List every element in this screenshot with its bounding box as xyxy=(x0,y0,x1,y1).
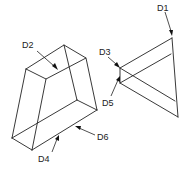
right-block-edge xyxy=(120,83,178,117)
left-block-top-face xyxy=(26,45,86,79)
label-d6: D6 xyxy=(97,132,109,142)
technical-drawing: D1 D2 D3 D5 D4 D6 xyxy=(0,0,186,172)
d5-leader xyxy=(111,80,118,96)
d4-leader xyxy=(52,139,57,152)
label-d4: D4 xyxy=(38,154,50,164)
d6-arrowhead xyxy=(75,126,81,130)
d1-arrowhead xyxy=(169,30,173,36)
d1-leader xyxy=(165,12,171,31)
left-block-edge xyxy=(64,45,77,100)
left-block-edge xyxy=(86,58,97,110)
label-d3: D3 xyxy=(99,47,111,57)
label-d5: D5 xyxy=(102,98,114,108)
d2-arrowhead xyxy=(52,63,58,70)
d5-arrowhead xyxy=(116,76,120,82)
right-block-edge xyxy=(120,68,175,101)
left-block-edge xyxy=(32,79,46,150)
d6-leader xyxy=(79,128,95,135)
left-block xyxy=(12,45,97,150)
annotations xyxy=(37,12,173,152)
d3-leader xyxy=(108,57,116,64)
left-block-edge xyxy=(12,138,32,150)
right-block xyxy=(120,38,178,117)
left-block-edge xyxy=(12,100,77,138)
right-block-edge xyxy=(172,38,178,117)
left-block-edge xyxy=(77,100,97,110)
left-block-edge xyxy=(12,69,26,138)
left-block-edge xyxy=(32,110,97,150)
right-block-edge xyxy=(120,54,171,83)
label-d1: D1 xyxy=(157,3,169,13)
right-block-edge xyxy=(120,38,172,68)
label-d2: D2 xyxy=(22,40,34,50)
